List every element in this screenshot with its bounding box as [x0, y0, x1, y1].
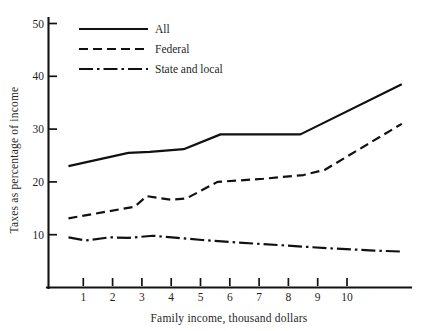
chart-legend: All Federal State and local — [79, 23, 223, 75]
x-axis-title: Family income, thousand dollars — [151, 312, 308, 325]
y-axis-tick-labels: 50 40 30 20 10 — [33, 18, 45, 241]
x-axis-tick-labels: 1 2 3 4 5 6 7 8 9 10 — [80, 291, 353, 303]
x-axis-ticks — [83, 278, 347, 286]
chart-axes — [47, 18, 411, 288]
series-line-federal — [68, 124, 401, 219]
y-tick-label-10: 10 — [33, 229, 45, 241]
chart-series-group — [68, 84, 401, 251]
y-tick-label-50: 50 — [33, 18, 45, 30]
y-tick-label-30: 30 — [33, 123, 45, 135]
legend-item-all: All — [79, 23, 170, 35]
legend-item-state-and-local: State and local — [79, 63, 223, 75]
x-tick-label-7: 7 — [256, 291, 262, 303]
series-line-state-and-local — [68, 236, 401, 252]
x-tick-label-4: 4 — [168, 291, 174, 303]
y-axis-ticks — [49, 24, 57, 235]
y-tick-label-40: 40 — [33, 70, 45, 82]
x-tick-label-10: 10 — [341, 291, 353, 303]
x-tick-label-8: 8 — [286, 291, 292, 303]
legend-label-federal: Federal — [155, 43, 189, 55]
tax-burden-line-chart: 50 40 30 20 10 1 2 3 4 5 6 7 — [0, 0, 425, 331]
chart-figure: 50 40 30 20 10 1 2 3 4 5 6 7 — [0, 0, 425, 331]
x-tick-label-6: 6 — [227, 291, 233, 303]
y-axis-title: Taxes as percentage of income — [8, 87, 21, 234]
legend-label-all: All — [155, 23, 170, 35]
y-tick-label-20: 20 — [33, 176, 45, 188]
legend-item-federal: Federal — [79, 43, 189, 55]
x-tick-label-9: 9 — [315, 291, 321, 303]
x-tick-label-5: 5 — [198, 291, 204, 303]
x-tick-label-2: 2 — [110, 291, 116, 303]
x-tick-label-1: 1 — [80, 291, 86, 303]
x-tick-label-3: 3 — [139, 291, 145, 303]
legend-label-state-and-local: State and local — [155, 63, 223, 75]
